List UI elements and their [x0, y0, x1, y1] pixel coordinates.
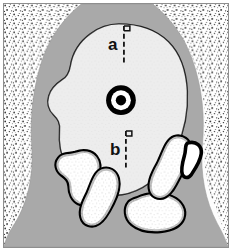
- label-a: a: [108, 36, 117, 53]
- figure-frame: a b: [3, 3, 229, 248]
- nodule-bottom-center-texture: [126, 194, 184, 232]
- bullseye-center-dot: [116, 95, 126, 105]
- label-b: b: [110, 141, 120, 158]
- bullseye-marker: [106, 85, 136, 115]
- figure-root: a b: [0, 0, 233, 251]
